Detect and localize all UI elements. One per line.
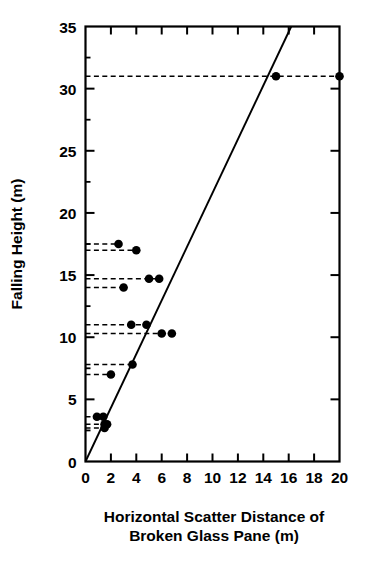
y-tick-label-5: 5 <box>68 391 77 408</box>
x-tick-label-18: 18 <box>305 469 323 486</box>
y-tick-label-0: 0 <box>68 454 77 471</box>
data-point-3 <box>132 246 141 255</box>
x-tick-label-6: 6 <box>157 469 166 486</box>
y-tick-label-15: 15 <box>59 267 77 284</box>
x-axis-title-line2: Broken Glass Pane (m) <box>129 527 299 544</box>
x-axis-title-line1: Horizontal Scatter Distance of <box>104 508 325 525</box>
y-tick-label-30: 30 <box>59 81 76 98</box>
y-tick-label-10: 10 <box>59 329 76 346</box>
x-tick-label-4: 4 <box>132 469 141 486</box>
data-point-8 <box>142 320 151 329</box>
data-point-7 <box>127 320 136 329</box>
data-point-10 <box>168 329 177 338</box>
data-point-0 <box>272 72 281 81</box>
data-point-5 <box>155 275 164 284</box>
data-point-12 <box>107 370 116 379</box>
y-tick-label-20: 20 <box>59 205 76 222</box>
x-tick-label-16: 16 <box>280 469 298 486</box>
x-tick-label-10: 10 <box>204 469 221 486</box>
data-point-14 <box>99 412 108 421</box>
data-point-6 <box>119 283 128 292</box>
data-point-17 <box>100 424 109 433</box>
x-tick-label-2: 2 <box>107 469 116 486</box>
y-axis-title: Falling Height (m) <box>8 179 25 310</box>
x-tick-label-20: 20 <box>331 469 348 486</box>
y-tick-label-35: 35 <box>59 19 77 36</box>
x-tick-label-14: 14 <box>255 469 273 486</box>
data-point-4 <box>145 275 154 284</box>
plot-frame <box>86 27 340 462</box>
x-tick-label-0: 0 <box>81 469 90 486</box>
data-point-9 <box>157 329 166 338</box>
chart-svg: 0246810121416182005101520253035Falling H… <box>0 0 366 575</box>
y-tick-label-25: 25 <box>59 143 77 160</box>
data-point-1 <box>335 72 344 81</box>
x-tick-label-8: 8 <box>183 469 192 486</box>
scatter-plot-figure: 0246810121416182005101520253035Falling H… <box>0 0 366 575</box>
data-point-11 <box>128 360 137 369</box>
x-tick-label-12: 12 <box>229 469 246 486</box>
data-point-2 <box>114 240 123 249</box>
